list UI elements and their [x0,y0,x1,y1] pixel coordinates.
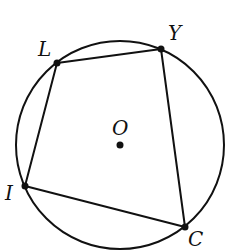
quadrilateral-lyci [25,49,185,227]
center-point-o [117,142,124,149]
inscribed-quadrilateral-diagram: L Y C I O [0,0,228,250]
label-o: O [112,116,128,140]
label-y: Y [168,21,183,45]
label-i: I [4,181,14,205]
label-l: L [37,37,51,61]
label-c: C [188,227,203,250]
vertex-i [22,183,29,190]
vertex-y [158,46,165,53]
vertex-l [54,60,61,67]
